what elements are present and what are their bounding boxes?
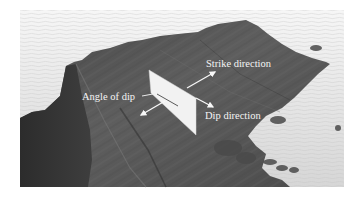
figure-canvas: Strike direction Angle of dip Dip direct… [0, 0, 362, 199]
geology-figure: Strike direction Angle of dip Dip direct… [0, 0, 362, 199]
angle-of-dip-label: Angle of dip [82, 91, 135, 102]
dip-direction-label: Dip direction [205, 110, 261, 121]
strike-direction-label: Strike direction [206, 58, 272, 69]
